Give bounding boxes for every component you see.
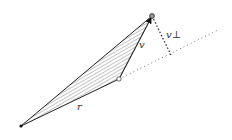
vector-diagram: r v v⊥ xyxy=(0,0,232,140)
label-v-perp: v⊥ xyxy=(166,29,181,40)
r-end-point xyxy=(117,77,121,81)
triangle-edge xyxy=(21,16,152,126)
origin-point xyxy=(19,124,22,127)
label-r: r xyxy=(77,101,83,112)
v-end-point xyxy=(150,14,155,19)
label-v: v xyxy=(139,39,145,50)
